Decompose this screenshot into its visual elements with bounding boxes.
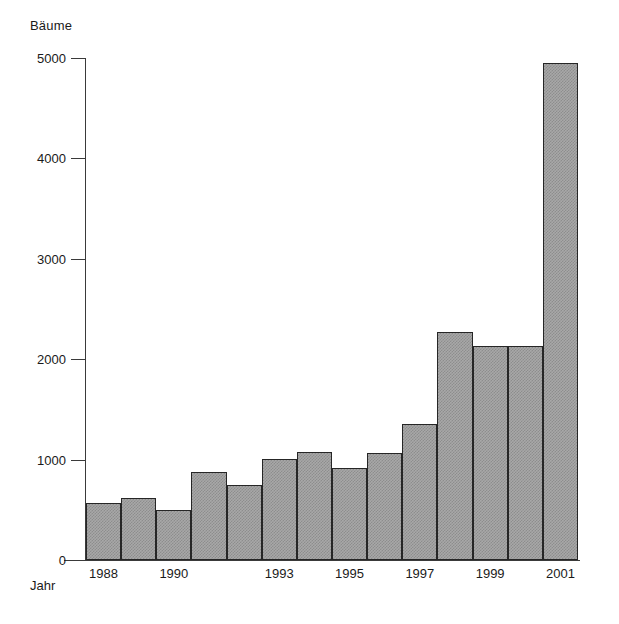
y-axis-tick bbox=[71, 158, 85, 159]
bar bbox=[402, 424, 437, 560]
x-axis-line bbox=[64, 560, 580, 561]
bar bbox=[156, 510, 191, 560]
bar bbox=[473, 346, 508, 560]
x-axis-tick-label: 1988 bbox=[89, 566, 118, 581]
bar bbox=[543, 63, 578, 560]
bar bbox=[86, 503, 121, 560]
bar bbox=[332, 468, 367, 560]
bar bbox=[121, 498, 156, 560]
bar bbox=[191, 472, 226, 560]
x-axis-tick-labels: 1988199019931995199719992001 bbox=[86, 563, 578, 587]
y-axis-tick bbox=[71, 259, 85, 260]
y-axis-tick-label: 0 bbox=[4, 553, 66, 568]
y-axis-tick bbox=[71, 460, 85, 461]
y-axis-tick-label: 5000 bbox=[4, 51, 66, 66]
x-axis-tick-label: 1997 bbox=[405, 566, 434, 581]
bar-series bbox=[86, 58, 578, 560]
x-axis-tick-label: 1990 bbox=[159, 566, 188, 581]
y-axis-tick-labels: 010002000300040005000 bbox=[0, 0, 66, 624]
y-axis-tick bbox=[71, 359, 85, 360]
x-axis-tick-label: 1993 bbox=[265, 566, 294, 581]
y-axis-tick-label: 3000 bbox=[4, 251, 66, 266]
bar-chart: Bäume 010002000300040005000 198819901993… bbox=[0, 0, 619, 624]
bar bbox=[437, 332, 472, 560]
bar bbox=[297, 452, 332, 560]
x-axis-tick-label: 1999 bbox=[476, 566, 505, 581]
x-axis-tick-label: 2001 bbox=[546, 566, 575, 581]
bar bbox=[227, 485, 262, 560]
y-axis-tick-label: 1000 bbox=[4, 452, 66, 467]
bar bbox=[262, 459, 297, 560]
bar bbox=[367, 453, 402, 560]
y-axis-tick-label: 2000 bbox=[4, 352, 66, 367]
x-axis-tick-label: 1995 bbox=[335, 566, 364, 581]
x-axis-title: Jahr bbox=[30, 578, 55, 593]
y-axis-tick-label: 4000 bbox=[4, 151, 66, 166]
y-axis-tick bbox=[71, 560, 85, 561]
y-axis-tick bbox=[71, 58, 85, 59]
bar bbox=[508, 346, 543, 560]
